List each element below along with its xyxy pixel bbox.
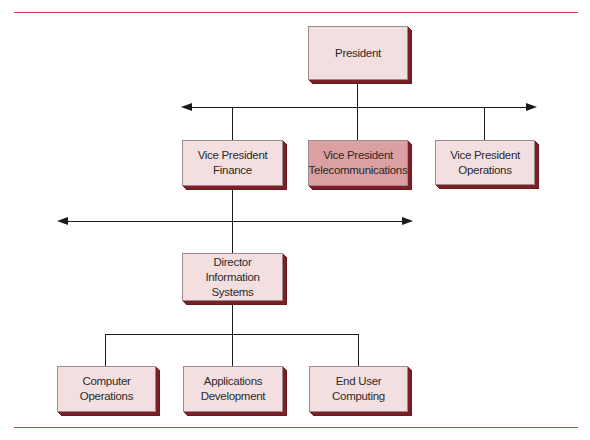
node-label-line2: Computing xyxy=(332,389,385,404)
node-vp-finance: Vice President Finance xyxy=(182,140,283,186)
arrow-left-icon xyxy=(57,217,68,225)
node-label-line1: Applications xyxy=(201,374,265,389)
arrow-right-icon xyxy=(402,217,413,225)
connector-vp-finance xyxy=(232,107,233,140)
director-level-bus-line xyxy=(66,221,404,222)
connector-vp-operations xyxy=(484,107,485,140)
bottom-rule xyxy=(14,427,578,428)
node-label-line2: Telecommunications xyxy=(309,163,408,178)
node-director-information-systems: Director Information Systems xyxy=(182,253,283,301)
node-applications-development: Applications Development xyxy=(183,366,283,412)
connector-president-down xyxy=(357,84,358,107)
bottom-level-bus-line xyxy=(105,334,359,335)
node-label-line1: Computer xyxy=(80,374,133,389)
node-label-line1: Vice President xyxy=(450,148,520,163)
connector-end-user-computing xyxy=(358,334,359,366)
node-vp-telecommunications: Vice President Telecommunications xyxy=(308,140,408,186)
node-label: President xyxy=(335,46,381,61)
node-label-line1: Vice President xyxy=(309,148,408,163)
connector-computer-operations xyxy=(105,334,106,366)
node-computer-operations: Computer Operations xyxy=(57,366,156,412)
node-vp-operations: Vice President Operations xyxy=(435,140,535,185)
arrow-left-icon xyxy=(181,103,192,111)
node-label-line1: Vice President xyxy=(198,148,268,163)
node-label-line2: Operations xyxy=(80,389,133,404)
arrow-right-icon xyxy=(526,103,537,111)
connector-vp-telecom xyxy=(357,107,358,140)
node-label-line1: End User xyxy=(332,374,385,389)
node-end-user-computing: End User Computing xyxy=(309,366,408,412)
vp-level-bus-line xyxy=(190,107,528,108)
node-label-line2: Information Systems xyxy=(183,270,282,300)
node-president: President xyxy=(308,26,408,80)
node-label-line2: Development xyxy=(201,389,265,404)
top-rule xyxy=(14,12,578,13)
node-label-line1: Director xyxy=(183,255,282,270)
node-label-line2: Finance xyxy=(198,163,268,178)
connector-director-down xyxy=(232,305,233,366)
node-label-line2: Operations xyxy=(450,163,520,178)
